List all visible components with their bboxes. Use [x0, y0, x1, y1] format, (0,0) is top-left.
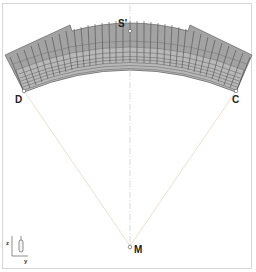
label-point-C: C [232, 94, 239, 105]
label-point-D: D [15, 94, 22, 105]
axis-triad-icon [12, 236, 28, 256]
diagram-canvas: S' D C M z y [0, 0, 256, 272]
point-M-marker [128, 245, 132, 249]
point-C-marker [234, 89, 238, 93]
line-D-M [24, 91, 130, 246]
point-D-marker [22, 89, 26, 93]
point-S-marker [128, 29, 131, 32]
axis-label-z: z [6, 240, 9, 246]
label-point-M: M [134, 244, 142, 255]
axis-label-y: y [24, 258, 27, 264]
label-point-S: S' [118, 18, 127, 29]
dome-shell-drawing [0, 0, 256, 272]
line-C-M [130, 91, 236, 246]
